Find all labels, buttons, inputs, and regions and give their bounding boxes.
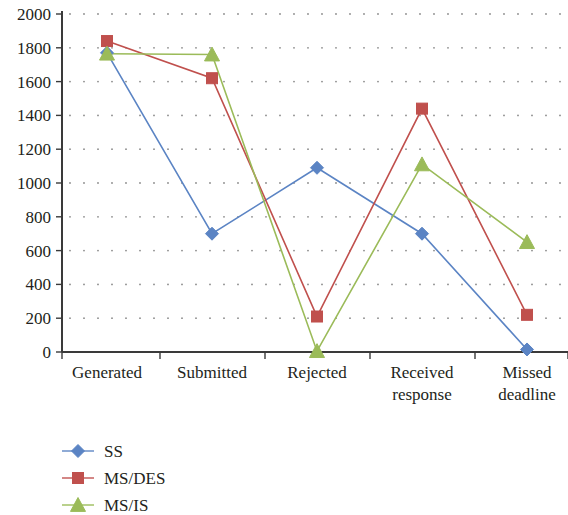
grid-dot bbox=[139, 250, 141, 252]
y-axis-tick-label: 1800 bbox=[17, 39, 51, 58]
grid-dot bbox=[125, 115, 127, 117]
grid-dot bbox=[111, 216, 113, 218]
grid-dot bbox=[377, 317, 379, 319]
grid-dot bbox=[139, 81, 141, 83]
grid-dot bbox=[125, 182, 127, 184]
grid-dot bbox=[209, 47, 211, 49]
grid-dot bbox=[153, 216, 155, 218]
grid-dot bbox=[125, 250, 127, 252]
grid-dot bbox=[517, 47, 519, 49]
grid-dot bbox=[363, 250, 365, 252]
grid-dot bbox=[97, 47, 99, 49]
grid-dot bbox=[167, 216, 169, 218]
grid-dot bbox=[265, 284, 267, 286]
grid-dot bbox=[349, 47, 351, 49]
grid-dot bbox=[321, 47, 323, 49]
grid-dot bbox=[181, 317, 183, 319]
x-axis-tick-label: response bbox=[392, 385, 451, 404]
grid-dot bbox=[307, 47, 309, 49]
grid-dot bbox=[391, 284, 393, 286]
grid-dot bbox=[419, 317, 421, 319]
grid-dot bbox=[475, 115, 477, 117]
grid-dot bbox=[125, 148, 127, 150]
grid-dot bbox=[111, 47, 113, 49]
grid-dot bbox=[167, 250, 169, 252]
grid-dot bbox=[69, 317, 71, 319]
grid-dot bbox=[545, 317, 547, 319]
grid-dot bbox=[83, 284, 85, 286]
grid-dot bbox=[461, 317, 463, 319]
grid-dot bbox=[461, 216, 463, 218]
grid-dot bbox=[237, 47, 239, 49]
grid-dot bbox=[181, 47, 183, 49]
grid-dot bbox=[97, 81, 99, 83]
grid-dot bbox=[83, 81, 85, 83]
grid-dot bbox=[461, 148, 463, 150]
grid-dot bbox=[545, 284, 547, 286]
grid-dot bbox=[139, 317, 141, 319]
grid-dot bbox=[237, 317, 239, 319]
grid-dot bbox=[321, 284, 323, 286]
grid-dot bbox=[517, 284, 519, 286]
grid-dot bbox=[377, 115, 379, 117]
grid-dot bbox=[223, 182, 225, 184]
grid-dot bbox=[363, 47, 365, 49]
grid-dot bbox=[405, 81, 407, 83]
grid-dot bbox=[209, 148, 211, 150]
grid-dot bbox=[265, 182, 267, 184]
grid-dot bbox=[307, 284, 309, 286]
grid-dot bbox=[125, 317, 127, 319]
grid-dot bbox=[405, 284, 407, 286]
grid-dot bbox=[391, 81, 393, 83]
grid-dot bbox=[531, 216, 533, 218]
y-axis-tick-label: 1200 bbox=[17, 140, 51, 159]
data-point-marker bbox=[522, 309, 533, 320]
grid-dot bbox=[335, 284, 337, 286]
grid-dot bbox=[209, 13, 211, 15]
grid-dot bbox=[475, 284, 477, 286]
grid-dot bbox=[111, 81, 113, 83]
data-point-marker bbox=[310, 344, 325, 358]
x-axis-tick-labels: GeneratedSubmittedRejectedReceivedrespon… bbox=[72, 363, 556, 404]
grid-dot bbox=[363, 13, 365, 15]
grid-dot bbox=[559, 216, 561, 218]
grid-dot bbox=[181, 115, 183, 117]
grid-dot bbox=[419, 284, 421, 286]
grid-dot bbox=[475, 13, 477, 15]
grid-dot bbox=[335, 216, 337, 218]
grid-dot bbox=[195, 115, 197, 117]
grid-dot bbox=[475, 317, 477, 319]
grid-dot bbox=[223, 47, 225, 49]
grid-dot bbox=[419, 81, 421, 83]
x-axis-tick-label: Received bbox=[390, 363, 454, 382]
grid-dot bbox=[531, 115, 533, 117]
grid-dot bbox=[139, 216, 141, 218]
grid-dot bbox=[475, 182, 477, 184]
grid-dot bbox=[447, 47, 449, 49]
grid-dot bbox=[377, 182, 379, 184]
x-axis-tick-label: deadline bbox=[498, 385, 556, 404]
grid-dot bbox=[419, 250, 421, 252]
grid-dot bbox=[181, 250, 183, 252]
grid-dot bbox=[293, 250, 295, 252]
grid-dot bbox=[195, 81, 197, 83]
grid-dot bbox=[97, 216, 99, 218]
y-axis-tick-labels: 0200400600800100012001400160018002000 bbox=[17, 5, 51, 362]
grid-dot bbox=[167, 13, 169, 15]
grid-dot bbox=[279, 47, 281, 49]
grid-dot bbox=[321, 13, 323, 15]
grid-dot bbox=[167, 81, 169, 83]
grid-dot bbox=[181, 284, 183, 286]
y-axis-tick-label: 1600 bbox=[17, 73, 51, 92]
grid-dot bbox=[545, 47, 547, 49]
grid-dot bbox=[377, 47, 379, 49]
data-point-marker bbox=[311, 161, 324, 174]
grid-dot bbox=[237, 284, 239, 286]
grid-dot bbox=[279, 216, 281, 218]
grid-dot bbox=[545, 81, 547, 83]
grid-dot bbox=[209, 317, 211, 319]
grid-dot bbox=[321, 115, 323, 117]
grid-dot bbox=[377, 13, 379, 15]
grid-dot bbox=[237, 182, 239, 184]
grid-dot bbox=[83, 182, 85, 184]
